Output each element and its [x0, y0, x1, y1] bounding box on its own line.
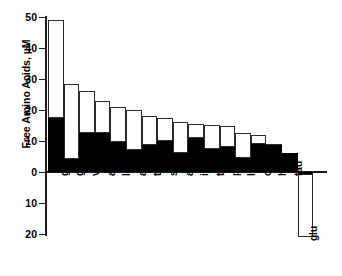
bar-open-segment [79, 91, 95, 133]
y-tick-label-0: 0 [31, 167, 37, 177]
y-tick-label-20: 20 [25, 105, 37, 115]
y-tick-label-30: 30 [25, 74, 37, 84]
x-tick-label-gly: gly [75, 161, 85, 175]
bar-open-segment [95, 101, 111, 134]
y-tick-mark [39, 17, 45, 19]
x-tick-label-tau: tau [294, 161, 304, 176]
x-tick-label-orn: orn [263, 160, 273, 176]
bar-open-segment [142, 116, 158, 145]
bar-leu [110, 0, 126, 276]
bar-ile [188, 0, 204, 276]
bar-asn [173, 0, 189, 276]
y-tick-label-10: 10 [25, 136, 37, 146]
y-tick-label-neg10: 10 [25, 198, 37, 208]
y-axis-spine [45, 16, 47, 236]
x-tick-label-his: his [278, 161, 288, 175]
y-tick-label-50: 50 [25, 12, 37, 22]
x-tick-label-thr: thr [153, 162, 163, 175]
x-tick-label-gln: gln [60, 161, 70, 176]
bar-his [266, 0, 282, 276]
y-tick-mark [39, 203, 45, 205]
bar-arg [126, 0, 142, 276]
bar-open-segment [251, 135, 267, 144]
bar-val [79, 0, 95, 276]
plot-area: glnglyvalalaleuargthrserasniletyrphelyso… [45, 0, 330, 276]
x-tick-label-val: val [91, 162, 101, 176]
y-tick-label-neg20: 20 [25, 229, 37, 239]
bar-open-segment [220, 126, 236, 147]
y-tick-label-40: 40 [25, 43, 37, 53]
bar-lys [235, 0, 251, 276]
bar-open-segment [110, 107, 126, 143]
bar-chart: Free Amino Acids, µM 50 40 30 20 10 0 10… [0, 0, 342, 276]
x-tick-label-glu: glu [309, 226, 319, 241]
bar-open-segment [173, 122, 189, 153]
bar-gln [48, 0, 64, 276]
y-tick-mark [39, 172, 45, 174]
bar-thr [142, 0, 158, 276]
bar-open-segment [48, 20, 64, 118]
bar-open-segment [235, 133, 251, 158]
x-tick-label-leu: leu [122, 161, 132, 175]
bar-open-segment [157, 118, 173, 141]
bar-open-segment [188, 124, 204, 138]
bar-open-segment [204, 125, 220, 148]
bar-ser [157, 0, 173, 276]
bar-ala [95, 0, 111, 276]
x-tick-label-lys: lys [247, 162, 257, 176]
x-tick-label-ile: ile [200, 165, 210, 176]
x-tick-label-phe: phe [231, 158, 241, 176]
x-tick-label-tyr: tyr [216, 163, 226, 176]
x-tick-label-ser: ser [169, 161, 179, 176]
bar-tyr [204, 0, 220, 276]
y-tick-mark [39, 141, 45, 143]
bar-orn [251, 0, 267, 276]
bar-gly [64, 0, 80, 276]
x-tick-label-arg: arg [138, 160, 148, 176]
y-tick-mark [39, 79, 45, 81]
bar-tau [282, 0, 298, 276]
bar-open-segment [126, 110, 142, 150]
bar-open-segment [64, 84, 80, 160]
y-tick-mark [39, 48, 45, 50]
y-tick-mark [39, 234, 45, 236]
x-tick-label-asn: asn [185, 159, 195, 176]
x-tick-label-ala: ala [107, 162, 117, 176]
y-tick-mark [39, 110, 45, 112]
bar-phe [220, 0, 236, 276]
